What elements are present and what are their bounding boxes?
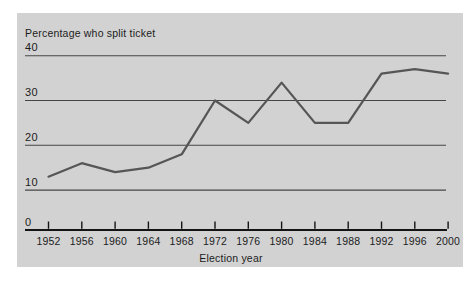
- y-tick-label: 30: [25, 86, 38, 99]
- chart-title: Percentage who split ticket: [25, 27, 155, 39]
- x-axis-title: Election year: [199, 252, 262, 264]
- y-tick-label: 20: [25, 131, 38, 144]
- y-tick-label: 10: [25, 176, 38, 189]
- x-tick-label: 2000: [428, 235, 468, 248]
- y-tick-label: 0: [25, 216, 31, 229]
- line-chart: [17, 13, 463, 267]
- chart-panel: Percentage who split ticket 010203040 19…: [17, 13, 463, 267]
- y-tick-label: 40: [25, 41, 38, 54]
- page: Percentage who split ticket 010203040 19…: [0, 0, 470, 285]
- data-line: [49, 69, 449, 177]
